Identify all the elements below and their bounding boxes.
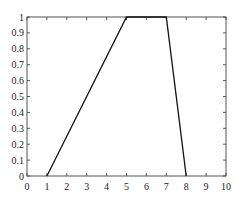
- x-tick-label: 3: [84, 181, 89, 192]
- y-tick-label: 0.6: [12, 75, 25, 86]
- y-tick-label: 0: [19, 171, 24, 182]
- axes-box: [27, 17, 226, 176]
- data-line: [47, 17, 186, 176]
- y-tick-label: 0.1: [12, 155, 25, 166]
- x-tick-label: 7: [164, 181, 169, 192]
- y-tick-label: 1: [19, 12, 24, 23]
- y-tick-label: 0.3: [12, 123, 25, 134]
- x-tick-label: 10: [221, 181, 231, 192]
- x-axis-tick-labels: 012345678910: [25, 181, 232, 192]
- x-tick-label: 2: [64, 181, 69, 192]
- y-axis-ticks: [27, 17, 226, 176]
- y-tick-label: 0.4: [12, 107, 25, 118]
- y-tick-label: 0.8: [12, 43, 25, 54]
- chart: 012345678910 00.10.20.30.40.50.60.70.80.…: [0, 0, 244, 203]
- y-tick-label: 0.5: [12, 91, 25, 102]
- y-tick-label: 0.9: [12, 27, 25, 38]
- x-tick-label: 4: [104, 181, 109, 192]
- plot-area: 012345678910 00.10.20.30.40.50.60.70.80.…: [12, 12, 232, 193]
- x-tick-label: 0: [25, 181, 30, 192]
- x-tick-label: 1: [44, 181, 49, 192]
- x-tick-label: 8: [184, 181, 189, 192]
- x-tick-label: 6: [144, 181, 149, 192]
- y-tick-label: 0.2: [12, 139, 25, 150]
- y-axis-tick-labels: 00.10.20.30.40.50.60.70.80.91: [12, 12, 25, 182]
- x-tick-label: 9: [204, 181, 209, 192]
- x-axis-ticks: [27, 17, 226, 176]
- y-tick-label: 0.7: [12, 59, 25, 70]
- x-tick-label: 5: [124, 181, 129, 192]
